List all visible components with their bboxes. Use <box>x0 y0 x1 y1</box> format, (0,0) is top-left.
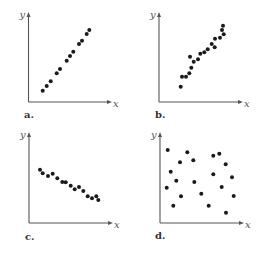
y-axis-arrow-icon <box>27 132 31 137</box>
x-axis-arrow-icon <box>108 221 113 225</box>
data-point <box>166 148 170 152</box>
data-point <box>217 152 221 156</box>
data-point <box>192 180 196 184</box>
panel-c: xyc. <box>19 129 120 242</box>
scatter-plots-figure: xya. xyb. xyc. xyd. <box>0 0 265 255</box>
data-point <box>94 194 98 198</box>
x-axis-label: x <box>245 219 251 230</box>
panel-label: b. <box>155 109 165 120</box>
data-point <box>199 192 203 196</box>
data-point <box>96 198 100 202</box>
y-axis-label: y <box>19 9 26 20</box>
panel-label: c. <box>25 231 35 242</box>
x-axis-label: x <box>114 219 120 230</box>
data-point <box>210 42 214 46</box>
data-point <box>41 171 45 175</box>
x-axis-arrow-icon <box>239 221 244 225</box>
data-point <box>232 194 236 198</box>
data-point <box>224 211 228 215</box>
data-point <box>220 28 224 32</box>
data-point <box>196 57 200 61</box>
y-axis-label: y <box>149 9 156 20</box>
data-point <box>58 67 62 71</box>
y-axis-arrow-icon <box>158 132 162 137</box>
data-point <box>230 175 234 179</box>
data-point <box>211 154 215 158</box>
x-axis-label: x <box>244 98 250 109</box>
data-point <box>207 204 211 208</box>
data-point <box>213 37 217 41</box>
data-point <box>202 50 206 54</box>
data-point <box>85 32 89 36</box>
data-point <box>224 162 228 166</box>
data-point <box>87 28 91 32</box>
data-point <box>179 85 183 89</box>
panel-d: xyd. <box>150 129 251 241</box>
y-axis-arrow-icon <box>157 12 161 17</box>
data-point <box>38 168 42 172</box>
data-point <box>65 59 69 63</box>
y-axis-label: y <box>150 129 157 140</box>
data-point <box>77 185 81 189</box>
y-axis-label: y <box>19 129 26 140</box>
data-point <box>69 184 73 188</box>
data-point <box>211 172 215 176</box>
data-point <box>41 89 45 93</box>
data-point <box>171 204 175 208</box>
data-point <box>46 174 50 178</box>
data-point <box>180 75 184 79</box>
panel-label: a. <box>24 109 34 120</box>
data-point <box>184 75 188 79</box>
data-point <box>191 158 195 162</box>
data-point <box>179 194 183 198</box>
data-point <box>206 47 210 51</box>
data-point <box>222 32 226 36</box>
data-point <box>86 194 90 198</box>
data-point <box>220 185 224 189</box>
data-point <box>55 176 59 180</box>
data-point <box>198 52 202 56</box>
data-point <box>178 160 182 164</box>
data-point <box>45 84 49 88</box>
panel-label: d. <box>155 230 165 241</box>
data-point <box>221 24 225 28</box>
data-point <box>80 39 84 43</box>
x-axis-arrow-icon <box>238 100 243 104</box>
data-point <box>60 180 64 184</box>
data-point <box>218 36 222 40</box>
y-axis-arrow-icon <box>27 12 31 17</box>
data-point <box>90 196 94 200</box>
data-point <box>185 150 189 154</box>
data-point <box>192 60 196 64</box>
data-point <box>73 187 77 191</box>
data-point <box>169 170 173 174</box>
data-point <box>189 66 193 70</box>
data-point <box>174 179 178 183</box>
x-axis-label: x <box>113 98 119 109</box>
data-point <box>165 186 169 190</box>
data-point <box>68 54 72 58</box>
data-point <box>71 50 75 54</box>
data-point <box>51 172 55 176</box>
data-point <box>81 189 85 193</box>
panel-b: xyb. <box>149 9 250 120</box>
panel-a: xya. <box>19 9 120 120</box>
data-point <box>55 71 59 75</box>
data-point <box>187 71 191 75</box>
data-point <box>64 180 68 184</box>
data-point <box>77 42 81 46</box>
data-point <box>188 55 192 59</box>
data-point <box>213 45 217 49</box>
x-axis-arrow-icon <box>107 100 112 104</box>
data-point <box>49 79 53 83</box>
